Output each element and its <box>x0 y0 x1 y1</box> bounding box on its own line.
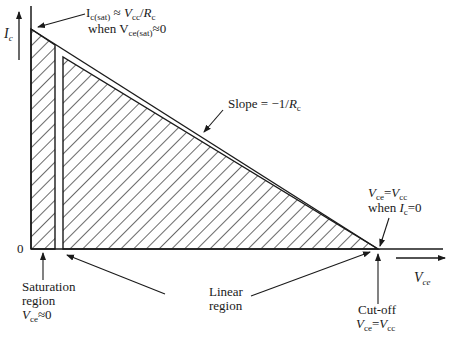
linear-arrow-right <box>251 252 370 296</box>
linear-region-hatch <box>63 57 378 249</box>
linear-region-label-2: region <box>209 299 242 313</box>
cutoff-region-label: Cut-off <box>358 303 396 317</box>
saturation-region-condition: Vce≈0 <box>22 308 52 322</box>
cutoff-region-condition: Vce=Vcc <box>356 317 395 331</box>
cutoff-voltage-annotation: Vce=Vcc <box>368 186 407 200</box>
origin-label: 0 <box>17 242 24 256</box>
saturation-current-annotation: Ic(sat) ≈ Vcc/Rc <box>86 6 156 20</box>
top-annotation-arrow <box>38 14 85 27</box>
y-axis-label: Ic <box>4 27 13 41</box>
saturation-region-label: Saturation <box>22 280 75 294</box>
right-annotation-arrow <box>380 218 389 246</box>
cutoff-voltage-condition: when Ic=0 <box>368 201 422 215</box>
saturation-current-condition: when Vce(sat)≈0 <box>88 22 166 36</box>
linear-region-label: Linear <box>209 285 243 299</box>
slope-label: Slope = −1/Rc <box>228 97 301 111</box>
linear-arrow-left <box>67 255 165 294</box>
x-axis-label: Vce <box>414 271 431 285</box>
saturation-region-hatch <box>31 29 55 249</box>
saturation-region-label-2: region <box>22 294 55 308</box>
slope-arrow <box>204 110 223 132</box>
